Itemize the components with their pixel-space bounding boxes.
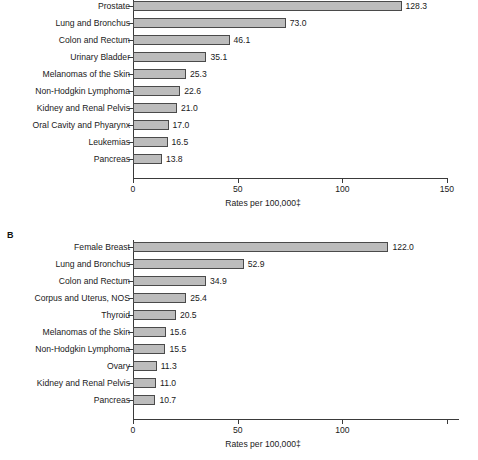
bar-row: Melanomas of the Skin15.6 xyxy=(0,327,478,344)
bar xyxy=(133,293,186,303)
category-label: Melanomas of the Skin xyxy=(0,69,130,80)
chart-panel-b: B Female Breast122.0Lung and Bronchus52.… xyxy=(0,226,478,460)
bar xyxy=(133,310,176,320)
bar-value-label: 128.3 xyxy=(406,1,428,12)
panel-letter-b: B xyxy=(7,230,14,240)
bar-value-label: 122.0 xyxy=(392,242,414,253)
category-label: Colon and Rectum xyxy=(0,276,130,287)
bar-value-label: 15.5 xyxy=(169,344,186,355)
category-label: Female Breast xyxy=(0,242,130,253)
x-axis-tick-label: 100 xyxy=(322,184,362,194)
bar-row: Thyroid20.5 xyxy=(0,310,478,327)
category-label: Ovary xyxy=(0,361,130,372)
bar xyxy=(133,259,244,269)
bar-value-label: 21.0 xyxy=(181,103,198,114)
x-axis-tick xyxy=(238,179,239,183)
x-axis-tick-label: 150 xyxy=(427,184,467,194)
bar xyxy=(133,154,162,164)
category-label: Melanomas of the Skin xyxy=(0,327,130,338)
x-axis-tick-label: 50 xyxy=(218,425,258,435)
bar xyxy=(133,69,186,79)
bar-row: Pancreas10.7 xyxy=(0,395,478,412)
category-label: Non-Hodgkin Lymphoma xyxy=(0,86,130,97)
x-axis-tick xyxy=(342,179,343,183)
x-axis-tick-label: 50 xyxy=(218,184,258,194)
category-label: Thyroid xyxy=(0,310,130,321)
bar-row: Female Breast122.0 xyxy=(0,242,478,259)
bar-value-label: 13.8 xyxy=(166,154,183,165)
category-label: Kidney and Renal Pelvis xyxy=(0,103,130,114)
bar-value-label: 15.6 xyxy=(170,327,187,338)
bar-value-label: 20.5 xyxy=(180,310,197,321)
category-label: Corpus and Uterus, NOS xyxy=(0,293,130,304)
bar xyxy=(133,361,157,371)
category-label: Kidney and Renal Pelvis xyxy=(0,378,130,389)
x-axis-title: Rates per 100,000‡ xyxy=(0,439,478,449)
x-axis-tick xyxy=(447,179,448,183)
category-label: Leukemias xyxy=(0,137,130,148)
bar-row: Colon and Rectum46.1 xyxy=(0,35,478,52)
category-label: Prostate xyxy=(0,1,130,12)
x-axis-tick xyxy=(447,420,448,424)
bar xyxy=(133,395,155,405)
bar-row: Urinary Bladder35.1 xyxy=(0,52,478,69)
bar-value-label: 17.0 xyxy=(173,120,190,131)
category-label: Oral Cavity and Phyarynx xyxy=(0,120,130,131)
category-label: Colon and Rectum xyxy=(0,35,130,46)
x-axis-title: Rates per 100,000‡ xyxy=(0,198,478,208)
bar-row: Kidney and Renal Pelvis21.0 xyxy=(0,103,478,120)
bar-row: Prostate128.3 xyxy=(0,1,478,18)
bar-row: Colon and Rectum34.9 xyxy=(0,276,478,293)
bar xyxy=(133,344,165,354)
x-axis-tick xyxy=(133,179,134,183)
x-axis-tick-label: 0 xyxy=(113,184,153,194)
bar-value-label: 73.0 xyxy=(290,18,307,29)
bar xyxy=(133,18,286,28)
bar-value-label: 11.0 xyxy=(160,378,176,389)
bar xyxy=(133,35,230,45)
bar xyxy=(133,103,177,113)
x-axis-title-text: Rates per 100,000‡ xyxy=(225,198,301,208)
bar-row: Non-Hodgkin Lymphoma15.5 xyxy=(0,344,478,361)
bar-value-label: 35.1 xyxy=(210,52,227,63)
x-axis-tick xyxy=(342,420,343,424)
bar xyxy=(133,120,169,130)
bar xyxy=(133,1,402,11)
bar-value-label: 52.9 xyxy=(248,259,265,270)
bar xyxy=(133,242,388,252)
bar-row: Ovary11.3 xyxy=(0,361,478,378)
x-axis-line xyxy=(133,178,448,179)
bar xyxy=(133,276,206,286)
bar-value-label: 10.7 xyxy=(159,395,176,406)
bar-value-label: 11.3 xyxy=(161,361,177,372)
bar-row: Melanomas of the Skin25.3 xyxy=(0,69,478,86)
bar-row: Lung and Bronchus52.9 xyxy=(0,259,478,276)
bar xyxy=(133,52,206,62)
bar-row: Lung and Bronchus73.0 xyxy=(0,18,478,35)
bar xyxy=(133,137,168,147)
bar xyxy=(133,327,166,337)
category-label: Non-Hodgkin Lymphoma xyxy=(0,344,130,355)
bar-row: Non-Hodgkin Lymphoma22.6 xyxy=(0,86,478,103)
x-axis-line xyxy=(133,419,459,420)
bar xyxy=(133,86,180,96)
category-label: Lung and Bronchus xyxy=(0,18,130,29)
bar-row: Kidney and Renal Pelvis11.0 xyxy=(0,378,478,395)
bar-value-label: 25.4 xyxy=(190,293,207,304)
bar-value-label: 25.3 xyxy=(190,69,207,80)
x-axis-tick xyxy=(133,420,134,424)
bar-value-label: 16.5 xyxy=(172,137,189,148)
bar-row: Leukemias16.5 xyxy=(0,137,478,154)
category-label: Urinary Bladder xyxy=(0,52,130,63)
bar-value-label: 22.6 xyxy=(184,86,201,97)
bar-value-label: 34.9 xyxy=(210,276,227,287)
bar-row: Oral Cavity and Phyarynx17.0 xyxy=(0,120,478,137)
bar xyxy=(133,378,156,388)
x-axis-title-text: Rates per 100,000‡ xyxy=(225,439,301,449)
bar-row: Corpus and Uterus, NOS25.4 xyxy=(0,293,478,310)
x-axis-tick xyxy=(238,420,239,424)
category-label: Pancreas xyxy=(0,154,130,165)
x-axis-tick-label: 100 xyxy=(322,425,362,435)
bar-row: Pancreas13.8 xyxy=(0,154,478,171)
chart-panel-a: Prostate128.3Lung and Bronchus73.0Colon … xyxy=(0,0,478,218)
